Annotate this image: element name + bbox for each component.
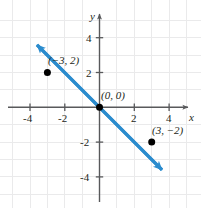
y-tick-label-2: 2 <box>86 68 92 79</box>
point-marker-b <box>148 139 155 146</box>
x-tick-label--2: -2 <box>58 113 67 124</box>
point-label-b: (3, −2) <box>152 125 183 136</box>
y-tick-label--4: -4 <box>80 172 89 183</box>
x-tick-label-4: 4 <box>166 113 172 124</box>
point-marker-a <box>44 69 51 76</box>
point-marker-origin <box>96 104 103 111</box>
x-tick-label--4: -4 <box>23 113 32 124</box>
point-label-origin: (0, 0) <box>101 90 125 101</box>
x-tick-label-2: 2 <box>131 113 137 124</box>
y-tick-label--2: -2 <box>80 137 89 148</box>
coordinate-plane-figure: -4 -2 2 4 4 2 -2 -4 y x (−3, 2) (0, 0) (… <box>0 0 201 208</box>
y-tick-label-4: 4 <box>86 33 92 44</box>
graph-canvas <box>0 0 201 208</box>
point-label-a: (−3, 2) <box>48 55 79 66</box>
x-axis-name: x <box>189 112 194 123</box>
y-axis-name: y <box>90 11 95 22</box>
